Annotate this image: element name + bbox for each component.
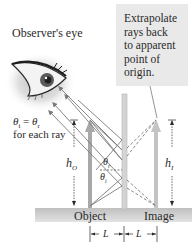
L-label-left: L <box>103 229 109 239</box>
object-label: Object <box>74 210 106 222</box>
callout-pointer <box>150 86 157 118</box>
image-arrow <box>151 119 161 208</box>
callout-line: Extrapolate <box>124 12 182 26</box>
theta-i-label: θi <box>100 172 107 184</box>
object-arrow <box>85 119 95 208</box>
L-label-right: L <box>136 229 142 239</box>
L-dimensions <box>90 226 157 242</box>
observer-label: Observer's eye <box>12 27 82 39</box>
callout-line: to apparent <box>124 39 182 53</box>
image-label: Image <box>144 210 174 222</box>
callout-line: rays back <box>124 26 182 40</box>
callout-box: Extrapolate rays back to apparent point … <box>116 4 188 86</box>
eye-icon <box>4 52 76 112</box>
mirror <box>122 94 127 209</box>
extrapolated-rays <box>127 120 156 206</box>
callout-line: point of <box>124 53 182 67</box>
theta-r-label: θr <box>103 157 110 169</box>
callout-line: origin. <box>124 66 182 80</box>
h-image-label: hI <box>165 157 173 172</box>
reflection-law-subtitle: for each ray <box>13 129 66 140</box>
h-object-label: hO <box>66 157 77 172</box>
